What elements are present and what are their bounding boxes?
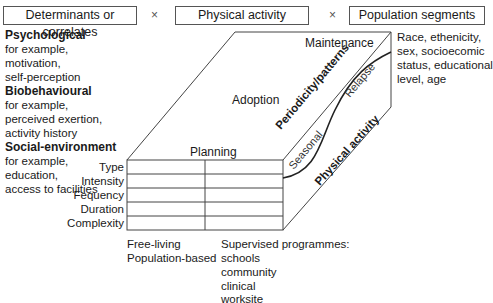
row-label-complexity: Complexity bbox=[40, 216, 124, 230]
stage-adoption: Adoption bbox=[232, 93, 279, 107]
setting-clinical: clinical bbox=[221, 279, 256, 293]
setting-schools: schools bbox=[221, 251, 260, 265]
setting-free-living: Free-living bbox=[127, 237, 181, 251]
row-label-frequency: Fequency bbox=[40, 188, 124, 202]
setting-population-based: Population-based bbox=[127, 251, 217, 265]
row-label-intensity: Intensity bbox=[40, 174, 124, 188]
setting-community: community bbox=[221, 265, 277, 279]
setting-supervised: Supervised programmes: bbox=[221, 237, 349, 251]
row-label-duration: Duration bbox=[40, 202, 124, 216]
setting-worksite: worksite bbox=[221, 292, 263, 303]
stage-planning: Planning bbox=[190, 145, 237, 159]
row-label-type: Type bbox=[60, 160, 124, 174]
